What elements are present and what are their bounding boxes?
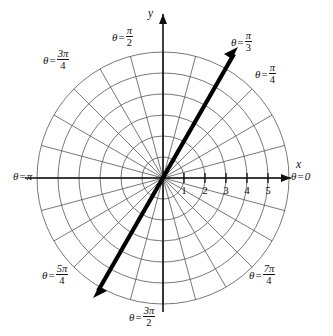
fraction-denominator: 2 <box>143 317 156 328</box>
tick-label-3: 3 <box>223 184 229 196</box>
tick-label-1: 1 <box>181 184 187 196</box>
fraction-denominator: 3 <box>245 42 252 53</box>
fraction-denominator: 2 <box>126 37 133 48</box>
fraction-numerator: π <box>126 25 133 37</box>
grid-spoke-135deg <box>74 89 163 178</box>
fraction-numerator: 3π <box>143 305 156 317</box>
fraction-denominator: 4 <box>56 275 69 286</box>
fraction: 7π 4 <box>263 263 276 286</box>
angle-label-theta-pi-2: θ= π 2 <box>112 25 133 48</box>
polar-coordinate-figure: 1 2 3 4 5 x y θ= π 2 θ= π 3 θ= π 4 <box>0 0 333 336</box>
ray-line-segment <box>98 54 234 291</box>
fraction: π 3 <box>245 30 252 53</box>
equals-sign: = <box>47 269 55 281</box>
fraction-numerator: 3π <box>57 48 70 60</box>
fraction-numerator: π <box>269 62 276 74</box>
fraction: π 2 <box>126 25 133 48</box>
angle-label-theta-3pi-4: θ= 3π 4 <box>43 48 69 71</box>
grid-spoke-150deg <box>54 115 163 178</box>
equals-sign: = <box>48 54 56 66</box>
equals-sign: = <box>117 31 125 43</box>
tick-label-5: 5 <box>265 184 271 196</box>
angle-label-theta-3pi-2: θ= 3π 2 <box>129 305 155 328</box>
angle-label-theta-pi-4: θ= π 4 <box>255 62 276 85</box>
equals-sign: = <box>18 170 26 182</box>
angle-label-theta-pi-3: θ= π 3 <box>231 30 252 53</box>
equals-sign: = <box>260 68 268 80</box>
angle-value: 0 <box>305 170 311 182</box>
x-axis-label: x <box>295 158 302 170</box>
equals-sign: = <box>236 36 244 48</box>
x-axis-arrowhead <box>281 174 291 182</box>
fraction-numerator: 5π <box>56 263 69 275</box>
fraction-denominator: 4 <box>263 275 276 286</box>
fraction: 3π 4 <box>57 48 70 71</box>
angle-value: π <box>27 170 33 182</box>
angle-label-theta-5pi-4: θ= 5π 4 <box>42 263 68 286</box>
fraction: 3π 2 <box>143 305 156 328</box>
grid-spoke-330deg <box>163 178 272 241</box>
fraction: 5π 4 <box>56 263 69 286</box>
angle-label-theta-0: θ=0 <box>291 171 310 182</box>
angle-label-theta-7pi-4: θ= 7π 4 <box>249 263 275 286</box>
ray-arrowhead-lower <box>93 286 107 298</box>
tick-label-2: 2 <box>202 184 208 196</box>
tick-label-4: 4 <box>244 184 250 196</box>
grid-spoke-300deg <box>163 178 226 287</box>
fraction-numerator: π <box>245 30 252 42</box>
grid-spoke-120deg <box>100 69 163 178</box>
equals-sign: = <box>254 269 262 281</box>
fraction-numerator: 7π <box>263 263 276 275</box>
fraction-denominator: 4 <box>57 60 70 71</box>
y-axis-label: y <box>147 7 154 20</box>
radial-tick-labels: 1 2 3 4 5 <box>181 184 271 196</box>
fraction: π 4 <box>269 62 276 85</box>
fraction-denominator: 4 <box>269 74 276 85</box>
cartesian-axis-names: x y <box>147 7 302 170</box>
equals-sign: = <box>296 170 304 182</box>
equals-sign: = <box>134 311 142 323</box>
angle-label-theta-pi: θ=π <box>13 171 32 182</box>
y-axis-arrowhead <box>159 14 167 24</box>
